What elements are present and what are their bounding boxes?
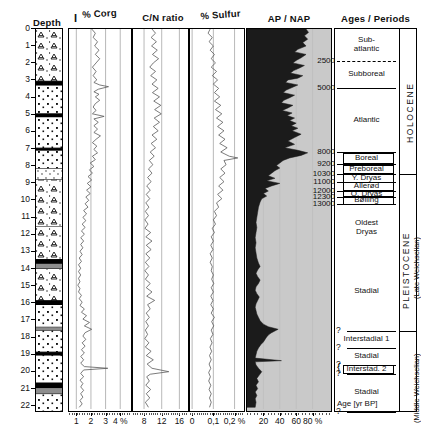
curve-line [208, 29, 238, 407]
depth-tick-label: 10 [8, 194, 30, 204]
lithology-bed [36, 327, 62, 330]
period-name: atlantic [335, 44, 398, 53]
header-apnap: AP / NAP [250, 13, 328, 24]
x-minor-tick [220, 413, 221, 415]
epoch-subname: (Late Weichselian) [412, 237, 421, 299]
x-minor-tick [264, 413, 265, 415]
x-minor-tick [254, 413, 255, 415]
sulfur-plot[interactable] [189, 28, 245, 412]
x-minor-tick [182, 413, 183, 415]
x-minor-tick [144, 413, 145, 415]
x-minor-tick [257, 413, 258, 415]
age-boundary-line [337, 182, 396, 183]
x-minor-tick [137, 413, 138, 415]
period-name: Subboreal [335, 69, 398, 78]
x-minor-tick [298, 413, 299, 415]
lithology-bed [36, 264, 62, 269]
age-boundary-line [337, 204, 396, 205]
x-minor-tick [194, 413, 195, 415]
period-name: Oldest [335, 218, 398, 227]
period-name: Dryas [335, 227, 398, 236]
depth-tick-label: 22 [8, 400, 30, 410]
x-minor-tick [281, 413, 282, 415]
x-minor-tick [157, 413, 158, 415]
x-minor-tick [203, 413, 204, 415]
depth-tick-label: 9 [8, 177, 30, 187]
apnap-filled-area [247, 29, 309, 407]
header-cn: C/N ratio [133, 12, 193, 23]
x-minor-tick [107, 413, 108, 415]
lithology-bed [36, 260, 62, 264]
x-minor-tick [89, 413, 90, 415]
p-corg-curve [69, 29, 129, 409]
x-minor-tick [133, 413, 134, 415]
x-minor-tick [140, 413, 141, 415]
x-minor-tick [199, 413, 200, 415]
x-minor-tick [77, 413, 78, 415]
x-minor-tick [291, 413, 292, 415]
x-minor-tick [112, 413, 113, 415]
period-name: Stadial [335, 351, 398, 360]
x-minor-tick [305, 413, 306, 415]
lithology-bed [36, 394, 62, 411]
x-minor-tick [238, 413, 239, 415]
uncertain-marker: ? [336, 342, 341, 352]
corg-plot[interactable] [68, 28, 132, 412]
lithology-bed [36, 29, 62, 81]
x-tick-label: 0,2 % [221, 416, 249, 426]
period-name: Atlantic [335, 115, 398, 124]
lithology-bed [36, 227, 62, 260]
x-minor-tick [326, 413, 327, 415]
x-minor-tick [146, 413, 147, 415]
lithology-bed [36, 86, 62, 114]
lithology-bed [36, 305, 62, 327]
lithology-bed [36, 269, 62, 301]
uncertain-marker: ? [336, 325, 341, 335]
x-minor-tick [212, 413, 213, 415]
ages-periods-column[interactable]: Sub-atlanticSubborealAtlanticBorealPrebo… [334, 28, 417, 412]
x-minor-tick [205, 413, 206, 415]
x-tick-label: 80 % [299, 416, 327, 426]
x-minor-tick [166, 413, 167, 415]
x-minor-tick [179, 413, 180, 415]
lithology-bed [36, 301, 62, 305]
x-minor-tick [164, 413, 165, 415]
x-minor-tick [142, 413, 143, 415]
age-boundary-line [337, 191, 396, 192]
lithology-bed [36, 169, 62, 180]
x-minor-tick [168, 413, 169, 415]
x-minor-tick [210, 413, 211, 415]
depth-tick-label: 17 [8, 314, 30, 324]
age-boundary-line [337, 197, 396, 198]
lithology-column[interactable] [35, 28, 63, 412]
x-minor-tick [274, 413, 275, 415]
depth-tick-label: 13 [8, 245, 30, 255]
age-boundary-line [337, 152, 396, 153]
age-value: 5000 [301, 83, 335, 92]
x-minor-tick [312, 413, 313, 415]
cn-plot[interactable] [132, 28, 189, 412]
x-minor-tick [285, 413, 286, 415]
uncertain-boundary-line [347, 412, 396, 413]
x-minor-tick [94, 413, 95, 415]
epoch-name: HOLOCENE [405, 83, 415, 144]
depth-tick-label: 19 [8, 348, 30, 358]
x-minor-tick [149, 413, 150, 415]
header-sulfur: % Sulfur [191, 7, 250, 22]
x-minor-tick [160, 413, 161, 415]
x-minor-tick [201, 413, 202, 415]
x-minor-tick [214, 413, 215, 415]
age-value: 9200 [301, 159, 335, 168]
x-minor-tick [155, 413, 156, 415]
lithology-bed [36, 180, 62, 227]
lithology-bed [36, 117, 62, 148]
x-minor-tick [69, 413, 70, 415]
x-minor-tick [173, 413, 174, 415]
uncertain-boundary-line [347, 374, 396, 375]
x-minor-tick [162, 413, 163, 415]
x-minor-tick [72, 413, 73, 415]
lithology-bed [36, 352, 62, 355]
age-boundary-line [337, 174, 396, 175]
brace-icon: { [337, 361, 341, 373]
depth-tick-label: 8 [8, 160, 30, 170]
